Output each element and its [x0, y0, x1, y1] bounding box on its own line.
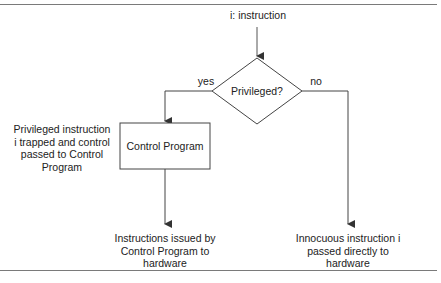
privileged-annotation: Privileged instruction i trapped and con… [10, 123, 114, 173]
outcome-left-line: Instructions issued by [110, 232, 220, 245]
annotation-line: Program [10, 161, 114, 174]
annotation-line: Privileged instruction [10, 123, 114, 136]
yes-branch-line [165, 91, 212, 121]
outcome-left-line: hardware [110, 257, 220, 270]
annotation-line: i trapped and control [10, 136, 114, 149]
annotation-line: passed to Control [10, 148, 114, 161]
yes-label: yes [196, 75, 216, 88]
decision-label: Privileged? [222, 85, 292, 98]
no-branch-line [302, 91, 348, 224]
no-label: no [308, 75, 324, 88]
outcome-right-line: hardware [290, 257, 406, 270]
outcome-left-line: Control Program to [110, 245, 220, 258]
outcome-right-line: passed directly to [290, 245, 406, 258]
start-label: i: instruction [222, 9, 294, 22]
process-box-label: Control Program [120, 140, 210, 153]
outcome-left-label: Instructions issued by Control Program t… [110, 232, 220, 270]
outcome-right-label: Innocuous instruction i passed directly … [290, 232, 406, 270]
outcome-right-line: Innocuous instruction i [290, 232, 406, 245]
